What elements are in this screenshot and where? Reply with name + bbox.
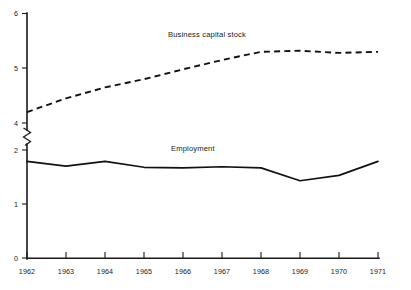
series-label-employment: Employment [171, 145, 215, 153]
x-axis-tick-label-1964: 1964 [90, 268, 120, 275]
series-line-business-capital-stock [27, 51, 378, 112]
y-axis-tick-label-0: 0 [2, 255, 18, 262]
x-axis-tick-label-1969: 1969 [285, 268, 315, 275]
y-axis-tick-label-2: 2 [2, 147, 18, 154]
y-axis-tick-label-5: 5 [2, 65, 18, 72]
series-line-employment [27, 161, 378, 180]
x-axis-tick-label-1967: 1967 [207, 268, 237, 275]
y-axis-tick-label-6: 6 [2, 10, 18, 17]
y-axis-tick-label-4: 4 [2, 120, 18, 127]
y-axis-tick-label-1: 1 [2, 201, 18, 208]
x-axis-tick-label-1965: 1965 [129, 268, 159, 275]
x-axis-tick-label-1970: 1970 [324, 268, 354, 275]
x-axis-tick-label-1963: 1963 [51, 268, 81, 275]
series-label-business-capital-stock: Business capital stock [168, 31, 246, 39]
y-axis-break-zigzag [24, 128, 31, 146]
x-axis-tick-label-1971: 1971 [363, 268, 393, 275]
x-axis-tick-label-1962: 1962 [12, 268, 42, 275]
x-axis-tick-label-1966: 1966 [168, 268, 198, 275]
line-chart: 6 5 4 2 1 0 1962 1963 1964 1965 1966 196… [0, 0, 411, 290]
x-axis-tick-label-1968: 1968 [246, 268, 276, 275]
